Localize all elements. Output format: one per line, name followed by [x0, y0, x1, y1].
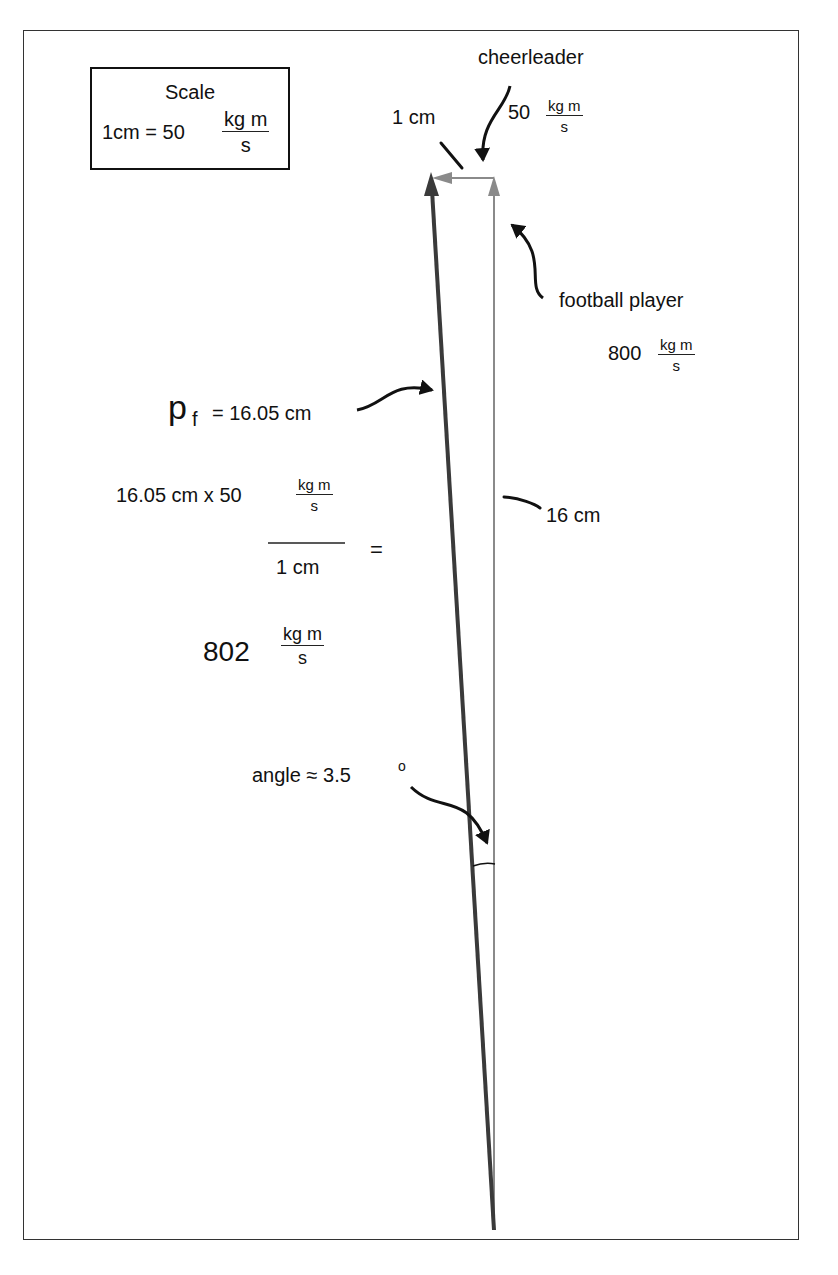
football-player-value: 800: [608, 342, 641, 365]
cheerleader-value: 50: [508, 101, 530, 124]
result-unit-denominator: s: [281, 646, 324, 669]
pf-pointer-arrow-icon: [357, 388, 432, 410]
football-player-unit-fraction: kg m s: [658, 337, 695, 374]
pf-equation: = 16.05 cm: [212, 402, 312, 425]
football-player-unit-denominator: s: [658, 355, 695, 374]
pf-subscript: f: [192, 408, 198, 431]
angle-label: angle ≈ 3.5: [252, 764, 351, 787]
cheerleader-pointer-arrow-icon: [483, 86, 510, 160]
calculation-denominator: 1 cm: [276, 556, 319, 579]
football-player-unit-numerator: kg m: [658, 337, 695, 355]
vector-diagram: [0, 0, 838, 1275]
one-cm-pointer: [441, 143, 462, 168]
calculation-unit-fraction: kg m s: [296, 477, 333, 514]
cheerleader-unit-fraction: kg m s: [546, 98, 583, 135]
cheerleader-unit-denominator: s: [546, 116, 583, 135]
calculation-unit-denominator: s: [296, 495, 333, 514]
football-player-pointer-arrow-icon: [512, 225, 543, 298]
calculation-unit-numerator: kg m: [296, 477, 333, 495]
cheerleader-label: cheerleader: [478, 46, 584, 69]
resultant-vector: [424, 172, 494, 1230]
pf-symbol: p: [168, 388, 187, 427]
football-player-label: football player: [559, 289, 684, 312]
one-cm-label: 1 cm: [392, 106, 435, 129]
angle-degree: o: [398, 758, 406, 774]
cheerleader-unit-numerator: kg m: [546, 98, 583, 116]
sixteen-cm-label: 16 cm: [546, 504, 600, 527]
calculation-equals: =: [370, 537, 383, 563]
result-value: 802: [203, 636, 250, 668]
result-unit-numerator: kg m: [281, 625, 324, 646]
sixteen-cm-pointer: [504, 497, 540, 508]
angle-arc: [473, 863, 495, 866]
calculation-numerator: 16.05 cm x 50: [116, 484, 242, 507]
result-unit-fraction: kg m s: [281, 625, 324, 669]
angle-pointer-arrow-icon: [411, 787, 487, 843]
football-player-vector: [488, 176, 500, 1230]
cheerleader-vector: [432, 172, 494, 184]
